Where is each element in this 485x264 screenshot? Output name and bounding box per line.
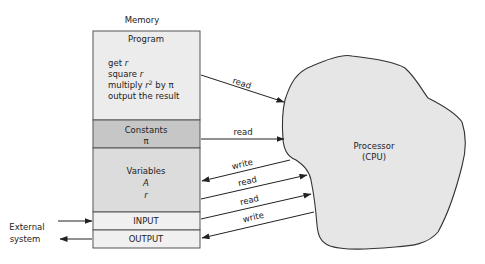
processor-label: Processor: [354, 141, 395, 151]
variable-r: r: [144, 190, 148, 200]
arrow-variables-read-label: read: [237, 174, 258, 188]
constants-pi: π: [143, 136, 148, 146]
program-line-4: output the result: [108, 91, 180, 101]
external-system-label-2: system: [10, 234, 41, 244]
program-line-2: square r: [108, 69, 144, 79]
memory-cpu-diagram: Memory Program get r square r multiply r…: [0, 0, 485, 264]
program-label: Program: [128, 34, 164, 44]
memory-title: Memory: [125, 15, 160, 25]
program-line-3: multiply r2 by π: [108, 79, 174, 90]
arrow-input-read-label: read: [239, 193, 260, 207]
variable-A: A: [142, 178, 149, 188]
constants-label: Constants: [125, 125, 168, 135]
arrow-constants-read-label: read: [233, 127, 252, 137]
arrow-output-write-label: write: [242, 210, 265, 225]
output-label: OUTPUT: [129, 234, 164, 244]
program-line-1: get r: [108, 58, 129, 68]
external-system-label-1: External: [9, 222, 44, 232]
input-label: INPUT: [133, 216, 159, 226]
variables-label: Variables: [127, 166, 166, 176]
processor-cpu-label: (CPU): [362, 152, 386, 162]
